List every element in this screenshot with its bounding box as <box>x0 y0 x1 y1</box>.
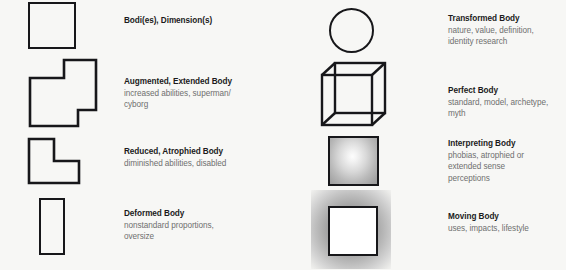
caption-bodies-dimensions: Bodi(es), Dimension(s) <box>124 15 276 27</box>
caption-subtitle: uses, impacts, lifestyle <box>448 223 566 235</box>
radial-gradient-square-shape <box>328 136 379 186</box>
glowing-white-square-shape <box>311 190 391 269</box>
stepped-notched-polygon-shape <box>28 58 98 128</box>
body-dimensions-diagram: Bodi(es), Dimension(s) Augmented, Extend… <box>0 0 566 270</box>
caption-title: Bodi(es), Dimension(s) <box>124 15 276 27</box>
caption-subtitle: nonstandard proportions, oversize <box>124 220 276 243</box>
l-shape-polygon-svg <box>27 137 81 185</box>
tall-narrow-rectangle-shape <box>39 198 65 255</box>
caption-subtitle: phobias, atrophied or extended sense per… <box>448 150 566 185</box>
diagram-column-right: Transformed Body nature, value, definiti… <box>283 0 566 270</box>
caption-interpreting-body: Interpreting Body phobias, atrophied or … <box>448 138 566 184</box>
caption-subtitle: standard, model, archetype, myth <box>448 97 566 120</box>
caption-title: Perfect Body <box>448 85 566 97</box>
caption-subtitle: diminished abilities, disabled <box>124 158 276 170</box>
caption-subtitle: increased abilities, superman/ cyborg <box>124 88 276 111</box>
outlined-square-shape <box>28 2 76 49</box>
l-shape-polygon <box>27 137 81 185</box>
inner-white-square <box>328 206 378 256</box>
caption-perfect-body: Perfect Body standard, model, archetype,… <box>448 85 566 120</box>
caption-title: Moving Body <box>448 211 566 223</box>
caption-reduced-atrophied-body: Reduced, Atrophied Body diminished abili… <box>124 146 276 169</box>
caption-title: Deformed Body <box>124 208 276 220</box>
caption-title: Interpreting Body <box>448 138 566 150</box>
diagram-entry-moving-body: Moving Body uses, impacts, lifestyle <box>283 0 566 79</box>
stepped-notched-polygon-svg <box>28 58 98 128</box>
caption-augmented-extended-body: Augmented, Extended Body increased abili… <box>124 76 276 111</box>
caption-deformed-body: Deformed Body nonstandard proportions, o… <box>124 208 276 243</box>
diagram-column-left: Bodi(es), Dimension(s) Augmented, Extend… <box>0 0 283 270</box>
caption-title: Augmented, Extended Body <box>124 76 276 88</box>
caption-title: Reduced, Atrophied Body <box>124 146 276 158</box>
caption-moving-body: Moving Body uses, impacts, lifestyle <box>448 211 566 234</box>
